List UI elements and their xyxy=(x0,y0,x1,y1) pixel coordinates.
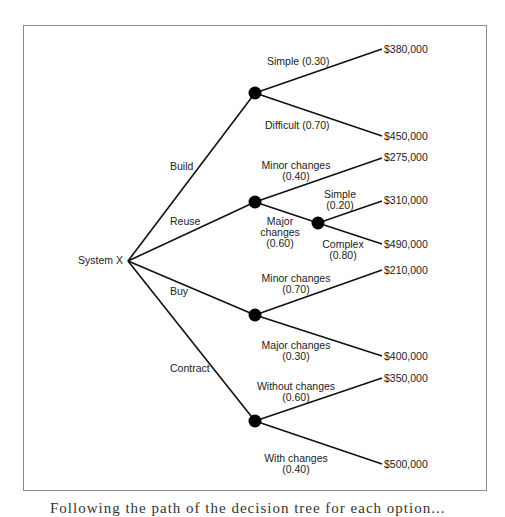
build-simple-label: Simple (0.30) xyxy=(267,56,329,67)
build-difficult-label: Difficult (0.70) xyxy=(265,120,330,131)
value-reuse-major-simple: $310,000 xyxy=(384,195,428,206)
chance-node-build xyxy=(249,87,262,100)
buy-major-label: Major changes (0.30) xyxy=(262,340,331,362)
value-buy-minor: $210,000 xyxy=(384,265,428,276)
reuse-major-simple-label: Simple (0.20) xyxy=(324,189,356,211)
value-reuse-minor: $275,000 xyxy=(384,152,428,163)
branch-buy-label: Buy xyxy=(170,286,188,297)
figure-caption: Following the path of the decision tree … xyxy=(50,500,445,517)
reuse-major-label: Major changes (0.60) xyxy=(260,216,300,249)
reuse-major-complex-label: Complex (0.80) xyxy=(322,239,363,261)
root-label: System X xyxy=(78,255,123,266)
reuse-minor-label: Minor changes (0.40) xyxy=(262,160,331,182)
branch-reuse-label: Reuse xyxy=(170,216,200,227)
branch-contract-label: Contract xyxy=(170,363,210,374)
value-build-simple: $380,000 xyxy=(384,44,428,55)
value-buy-major: $400,000 xyxy=(384,351,428,362)
value-reuse-major-complex: $490,000 xyxy=(384,239,428,250)
contract-without-label: Without changes (0.60) xyxy=(257,381,335,403)
contract-with-label: With changes (0.40) xyxy=(264,453,328,475)
value-contract-without: $350,000 xyxy=(384,373,428,384)
value-contract-with: $500,000 xyxy=(384,459,428,470)
chance-node-contract xyxy=(249,415,262,428)
chance-node-reuse xyxy=(249,196,262,209)
buy-minor-label: Minor changes (0.70) xyxy=(262,273,331,295)
value-build-difficult: $450,000 xyxy=(384,131,428,142)
chance-node-buy xyxy=(249,309,262,322)
branch-build-label: Build xyxy=(170,161,193,172)
chance-node-reuse-major xyxy=(312,217,325,230)
